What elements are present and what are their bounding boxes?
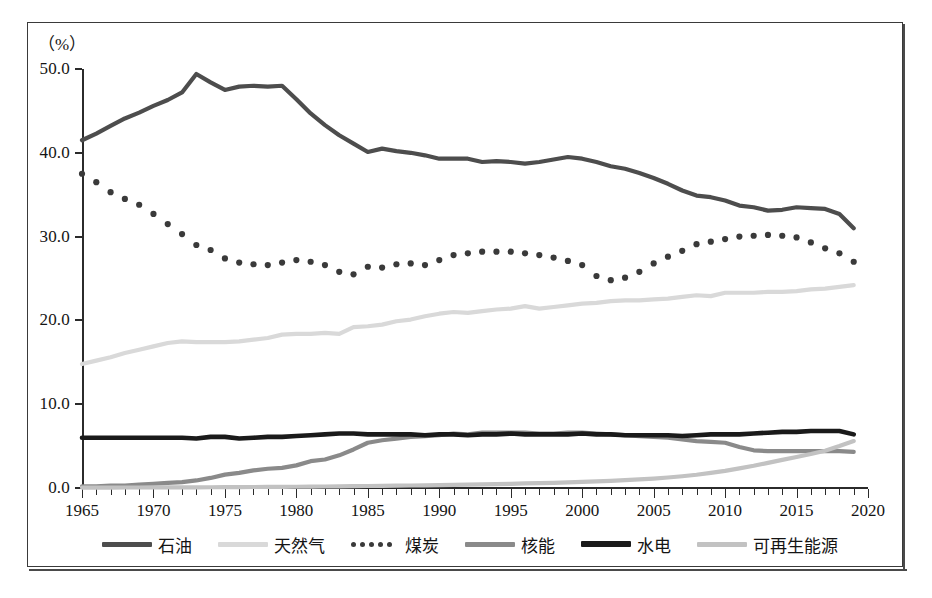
x-tick-minor [625,489,626,495]
y-tick-label: 40.0 [0,144,70,161]
legend-item-hydro[interactable]: 水电 [581,532,671,557]
series-gas [82,285,854,364]
x-tick-major [797,489,798,498]
y-tick [75,236,82,238]
x-tick-label: 1965 [65,501,99,521]
x-tick-minor [554,489,555,495]
x-tick-minor [96,489,97,495]
x-tick-minor [196,489,197,495]
x-tick-minor [268,489,269,495]
y-tick [75,68,82,70]
legend-label-nuclear: 核能 [521,532,555,557]
frame-right-shadow [903,24,905,571]
y-tick [75,152,82,154]
legend-label-gas: 天然气 [274,532,325,557]
x-tick-minor [754,489,755,495]
x-tick-major [868,489,869,498]
x-tick-minor [168,489,169,495]
x-tick-minor [411,489,412,495]
y-tick-label: 30.0 [0,228,70,245]
series-hydro [82,431,854,439]
legend-item-nuclear[interactable]: 核能 [465,532,555,557]
x-tick-minor [325,489,326,495]
y-tick [75,319,82,321]
legend-item-gas[interactable]: 天然气 [218,532,325,557]
x-tick-minor [239,489,240,495]
series-oil [82,74,854,228]
x-tick-minor [482,489,483,495]
legend-swatch-renewables [697,542,747,547]
x-tick-minor [396,489,397,495]
x-tick-minor [782,489,783,495]
x-tick-minor [425,489,426,495]
x-tick-minor [253,489,254,495]
legend-label-oil: 石油 [158,532,192,557]
x-tick-label: 2000 [565,501,599,521]
x-tick-label: 2010 [708,501,742,521]
x-tick-minor [854,489,855,495]
x-tick-minor [125,489,126,495]
x-tick-minor [811,489,812,495]
x-tick-major [654,489,655,498]
x-tick-label: 1980 [279,501,313,521]
legend-swatch-nuclear [465,542,515,547]
x-tick-minor [611,489,612,495]
x-tick-minor [596,489,597,495]
x-tick-minor [539,489,540,495]
x-tick-minor [839,489,840,495]
series-coal [79,171,857,284]
x-tick-minor [825,489,826,495]
figure-root: （%） 0.010.020.030.040.050.0 196519701975… [0,0,932,598]
x-tick-minor [382,489,383,495]
x-tick-major [439,489,440,498]
x-tick-minor [496,489,497,495]
x-tick-major [153,489,154,498]
legend-item-coal[interactable]: 煤炭 [351,532,439,557]
x-tick-major [582,489,583,498]
frame-bottom-shadow [29,569,907,571]
y-axis-unit-label: （%） [38,30,86,55]
x-tick-major [225,489,226,498]
x-tick-minor [711,489,712,495]
x-tick-minor [339,489,340,495]
x-tick-minor [182,489,183,495]
x-tick-major [296,489,297,498]
chart-legend: 石油天然气煤炭核能水电可再生能源 [60,529,880,559]
x-tick-label: 1990 [422,501,456,521]
x-tick-minor [211,489,212,495]
x-tick-minor [639,489,640,495]
x-tick-minor [682,489,683,495]
x-tick-minor [354,489,355,495]
x-tick-minor [111,489,112,495]
y-tick [75,403,82,405]
x-tick-minor [568,489,569,495]
x-tick-label: 1970 [136,501,170,521]
x-axis-area: 1965197019751980198519901995200020052010… [82,489,868,529]
x-tick-major [511,489,512,498]
series-canvas [82,69,868,488]
x-tick-minor [139,489,140,495]
x-tick-major [368,489,369,498]
x-tick-minor [739,489,740,495]
y-tick-label: 50.0 [0,60,70,77]
x-tick-minor [311,489,312,495]
legend-swatch-hydro [581,541,631,547]
legend-label-hydro: 水电 [637,532,671,557]
x-tick-minor [697,489,698,495]
legend-swatch-gas [218,542,268,547]
x-tick-minor [468,489,469,495]
legend-label-coal: 煤炭 [405,532,439,557]
legend-item-oil[interactable]: 石油 [102,532,192,557]
x-tick-minor [282,489,283,495]
legend-swatch-coal [351,541,399,547]
legend-label-renewables: 可再生能源 [753,532,838,557]
x-tick-label: 2020 [851,501,885,521]
legend-swatch-oil [102,542,152,547]
x-tick-label: 1985 [351,501,385,521]
x-tick-minor [768,489,769,495]
x-tick-label: 1975 [208,501,242,521]
legend-item-renewables[interactable]: 可再生能源 [697,532,838,557]
x-tick-label: 2015 [780,501,814,521]
x-tick-minor [525,489,526,495]
x-tick-label: 1995 [494,501,528,521]
